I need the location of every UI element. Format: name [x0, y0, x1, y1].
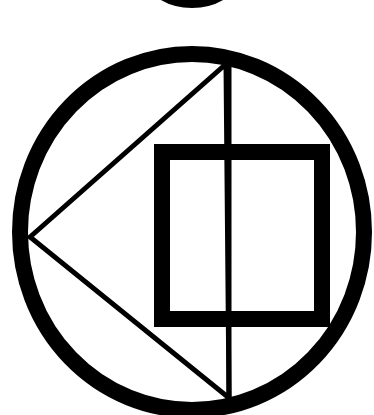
outer-circle	[20, 54, 364, 410]
symbol-svg	[0, 0, 374, 415]
top-arc	[140, 0, 244, 4]
symbol-figure: Circle with inscribed triangle and squar…	[0, 0, 374, 415]
square	[162, 152, 322, 319]
